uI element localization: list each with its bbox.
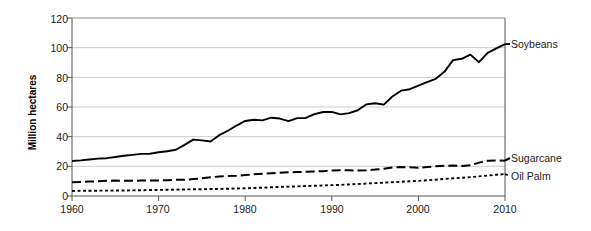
y-tick-label-100: 100 (38, 42, 68, 54)
x-tick-label-1970: 1970 (136, 203, 180, 215)
series-line-sugarcane (72, 160, 505, 182)
x-tick-label-1990: 1990 (310, 203, 354, 215)
series-line-soybeans (72, 44, 505, 161)
series-lines (72, 44, 505, 191)
series-line-oil-palm (72, 174, 505, 191)
y-tick-label-40: 40 (38, 131, 68, 143)
series-label-oilpalm: Oil Palm (511, 170, 551, 182)
y-tick-label-80: 80 (38, 72, 68, 84)
gridlines (72, 48, 505, 167)
plot-area (0, 0, 591, 231)
chart-container: Million hectares 120 100 80 60 40 20 0 1… (0, 0, 591, 231)
legend-stub-sugarcane (505, 158, 510, 161)
x-tick-label-2010: 2010 (483, 203, 527, 215)
y-tick-label-60: 60 (38, 101, 68, 113)
y-axis-title: Million hectares (27, 43, 38, 183)
y-tick-label-120: 120 (38, 13, 68, 25)
y-tick-label-0: 0 (38, 190, 68, 202)
x-tick-label-1960: 1960 (50, 203, 94, 215)
x-tick-label-2000: 2000 (396, 203, 440, 215)
legend-line-stubs (505, 44, 510, 176)
series-label-sugarcane: Sugarcane (511, 152, 562, 164)
legend-stub-oil-palm (505, 174, 510, 176)
axis-ticks (67, 18, 505, 201)
series-label-soybeans: Soybeans (511, 38, 558, 50)
y-tick-label-20: 20 (38, 160, 68, 172)
x-tick-label-1980: 1980 (223, 203, 267, 215)
